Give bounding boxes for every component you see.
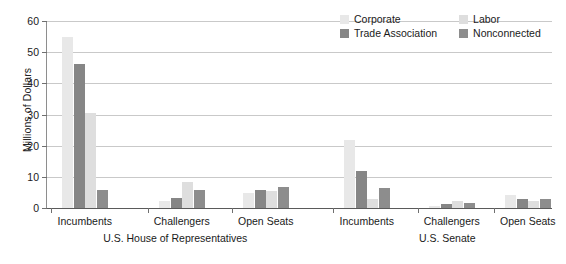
bar xyxy=(243,193,254,208)
gridline xyxy=(46,146,552,147)
x-group-label: Incumbents xyxy=(58,215,112,227)
y-tick-label: 10 xyxy=(27,171,39,183)
y-tick-mark xyxy=(42,21,47,22)
bar xyxy=(97,190,108,208)
x-tick-mark xyxy=(494,208,495,213)
legend-label: Corporate xyxy=(354,14,401,25)
bar xyxy=(194,190,205,208)
y-tick-label: 0 xyxy=(33,202,39,214)
legend-item: Nonconnected xyxy=(459,28,541,39)
bar xyxy=(62,37,73,208)
x-tick-mark xyxy=(333,208,334,213)
legend-item: Corporate xyxy=(340,14,437,25)
bar xyxy=(182,182,193,208)
bar xyxy=(452,201,463,208)
legend-swatch-icon xyxy=(459,29,468,38)
legend-label: Labor xyxy=(473,14,500,25)
bar-chart: Millions of Dollars 0102030405060Incumbe… xyxy=(0,0,566,264)
y-tick-label: 30 xyxy=(27,109,39,121)
x-group-label: Challengers xyxy=(154,215,210,227)
bar xyxy=(255,190,266,208)
x-group-label: Open Seats xyxy=(238,215,293,227)
bar xyxy=(159,201,170,208)
x-tick-mark xyxy=(51,208,52,213)
legend-item: Trade Association xyxy=(340,28,437,39)
bar xyxy=(278,187,289,209)
bar xyxy=(505,195,516,208)
x-group-label: Challengers xyxy=(424,215,480,227)
bar xyxy=(379,188,390,208)
y-tick-label: 40 xyxy=(27,77,39,89)
bar xyxy=(344,140,355,208)
y-tick-mark xyxy=(42,83,47,84)
bar xyxy=(171,198,182,208)
bar xyxy=(74,64,85,208)
bar xyxy=(517,199,528,208)
y-tick-mark xyxy=(42,146,47,147)
gridline xyxy=(46,83,552,84)
x-group-label: Incumbents xyxy=(340,215,394,227)
bar xyxy=(528,201,539,208)
gridline xyxy=(46,115,552,116)
y-tick-label: 50 xyxy=(27,46,39,58)
gridline xyxy=(46,52,552,53)
bar xyxy=(85,113,96,208)
panel-label: U.S. House of Representatives xyxy=(103,232,247,244)
y-tick-mark xyxy=(42,52,47,53)
bar xyxy=(441,204,452,208)
x-group-label: Open Seats xyxy=(500,215,555,227)
x-axis-line xyxy=(46,208,552,209)
legend-swatch-icon xyxy=(340,29,349,38)
legend-swatch-icon xyxy=(340,15,349,24)
legend-label: Trade Association xyxy=(354,28,437,39)
bar xyxy=(464,203,475,208)
bar xyxy=(367,199,378,208)
y-tick-mark xyxy=(42,177,47,178)
bar xyxy=(540,199,551,208)
y-tick-label: 20 xyxy=(27,140,39,152)
legend-label: Nonconnected xyxy=(473,28,541,39)
plot-area: 0102030405060IncumbentsChallengersOpen S… xyxy=(46,21,552,208)
gridline xyxy=(46,177,552,178)
bar xyxy=(356,171,367,208)
bar xyxy=(266,191,277,208)
x-tick-mark xyxy=(418,208,419,213)
x-tick-mark xyxy=(148,208,149,213)
y-tick-mark xyxy=(42,115,47,116)
legend-swatch-icon xyxy=(459,15,468,24)
y-tick-mark xyxy=(42,208,47,209)
x-tick-mark xyxy=(232,208,233,213)
legend-item: Labor xyxy=(459,14,541,25)
y-tick-label: 60 xyxy=(27,15,39,27)
chart-legend: CorporateLaborTrade AssociationNonconnec… xyxy=(340,14,541,39)
panel-label: U.S. Senate xyxy=(419,232,476,244)
bar xyxy=(429,206,440,208)
